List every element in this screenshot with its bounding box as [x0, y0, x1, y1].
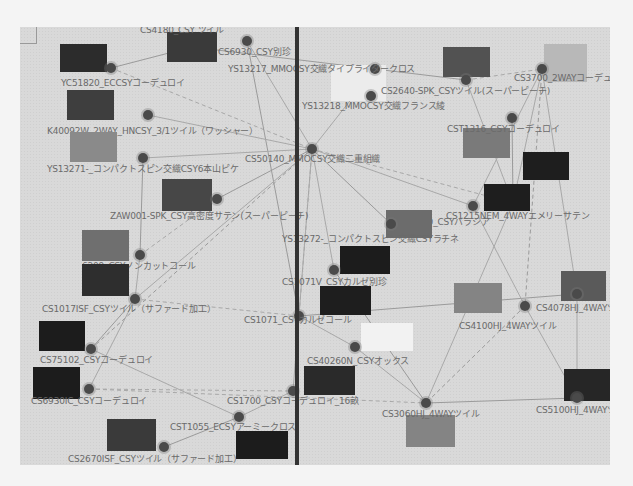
- node-label: YC51820_ECCSYコーデュロイ: [61, 76, 185, 89]
- node-label: CS1700_CSYコーデュロイ_16畝: [227, 394, 359, 407]
- graph-node[interactable]: [572, 393, 582, 403]
- fabric-swatch[interactable]: [304, 366, 355, 395]
- node-label: CS2670ISF_CSYツイル（サファード加工）: [68, 452, 241, 465]
- node-label: YS13272-_コンパクトスピン交織CSYラチネ: [282, 232, 459, 245]
- graph-node[interactable]: [468, 201, 478, 211]
- node-label: CS6930IC_CSYコーデュロイ: [31, 394, 147, 407]
- graph-node[interactable]: [520, 301, 530, 311]
- graph-node[interactable]: [212, 194, 222, 204]
- graph-node[interactable]: [350, 342, 360, 352]
- fabric-swatch[interactable]: [107, 419, 156, 451]
- fabric-swatch[interactable]: [361, 323, 413, 351]
- fabric-swatch[interactable]: [82, 264, 129, 296]
- fabric-swatch[interactable]: [167, 32, 217, 62]
- node-label: CS5100HJ_4WAYツイル: [536, 403, 610, 416]
- fabric-swatch[interactable]: [523, 152, 569, 180]
- fabric-swatch[interactable]: [340, 246, 390, 274]
- fabric-swatch[interactable]: [70, 132, 117, 162]
- fabric-swatch[interactable]: [454, 283, 502, 313]
- node-label: CS50140_MMOCSY交織二重組織: [245, 152, 380, 165]
- network-graph-canvas[interactable]: YC51820_ECCSYコーデュロイCS4180_CSY ツイルCS6930_…: [20, 27, 610, 465]
- node-label: CS4078HJ_4WAYツイル: [536, 301, 610, 314]
- graph-node[interactable]: [84, 384, 94, 394]
- graph-node[interactable]: [572, 289, 582, 299]
- graph-edge: [542, 69, 577, 294]
- fabric-swatch[interactable]: [60, 44, 107, 72]
- node-label: YS13271-_コンパクトスピン交織CSY6本山ピケ: [47, 162, 238, 175]
- fabric-swatch[interactable]: [236, 431, 288, 459]
- fabric-swatch[interactable]: [443, 47, 490, 77]
- graph-node[interactable]: [159, 442, 169, 452]
- node-label: CS2640-SPK_CSYツイル(スーパーピーチ): [381, 84, 550, 97]
- node-label: CS3700_2WAYコーデュロイ: [514, 71, 610, 84]
- node-label: CS1017ISF_CSYツイル（サファード加工）: [42, 302, 215, 315]
- node-label: YS13218_MMOCSY交織フランス綾: [302, 99, 445, 112]
- fabric-swatch[interactable]: [162, 179, 212, 211]
- fabric-swatch[interactable]: [67, 90, 114, 120]
- graph-node[interactable]: [386, 219, 396, 229]
- graph-node[interactable]: [106, 63, 116, 73]
- node-label: CST1055_ECSYアーミークロス: [170, 420, 296, 433]
- node-label: CS4180_CSY ツイル: [140, 27, 224, 36]
- fabric-swatch[interactable]: [564, 369, 610, 401]
- node-label: CS6930_CSY別珍: [218, 45, 291, 58]
- fabric-swatch[interactable]: [39, 321, 85, 351]
- node-label: ZAW001-SPK_CSY高密度サテン(スーパーピーチ): [110, 209, 308, 222]
- node-label: CS3060HJ_4WAYツイル: [382, 407, 480, 420]
- graph-node[interactable]: [329, 265, 339, 275]
- fabric-swatch[interactable]: [561, 271, 606, 301]
- fabric-swatch[interactable]: [484, 184, 530, 211]
- node-label: CS4100HJ_4WAYツイル: [459, 319, 557, 332]
- fabric-swatch[interactable]: [82, 230, 129, 261]
- vertical-divider-line: [295, 27, 299, 465]
- node-label: CS75102_CSYコーデュロイ: [40, 353, 153, 366]
- node-label: CST1316_CSYコーデュロイ: [447, 122, 560, 135]
- node-label: YS13217_MMOCSY交織タイプライタークロス: [228, 62, 415, 75]
- fabric-swatch[interactable]: [320, 286, 371, 315]
- graph-node[interactable]: [143, 110, 153, 120]
